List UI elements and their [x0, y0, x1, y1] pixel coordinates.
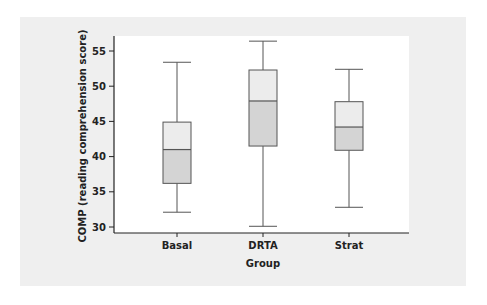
y-tick-label: 35	[92, 186, 106, 197]
y-tick-label: 40	[92, 151, 106, 162]
upper-box	[163, 122, 191, 149]
x-tick-label-drta: DRTA	[248, 240, 278, 251]
y-tick-label: 50	[92, 81, 106, 92]
lower-box	[249, 101, 277, 146]
y-axis: 303540455055	[92, 36, 114, 233]
lower-box	[163, 150, 191, 184]
upper-box	[335, 102, 363, 127]
y-tick-label: 55	[92, 46, 106, 57]
x-axis: BasalDRTAStrat	[114, 233, 409, 251]
lower-box	[335, 127, 363, 150]
upper-box	[249, 70, 277, 101]
y-axis-title: COMP (reading comprehension score)	[77, 30, 88, 243]
y-tick-label: 30	[92, 222, 106, 233]
x-axis-title: Group	[246, 258, 280, 269]
box-plot-chart: 303540455055 BasalDRTAStrat Group COMP (…	[0, 0, 487, 305]
x-tick-label-basal: Basal	[162, 240, 193, 251]
x-tick-label-strat: Strat	[335, 240, 364, 251]
y-tick-label: 45	[92, 116, 106, 127]
